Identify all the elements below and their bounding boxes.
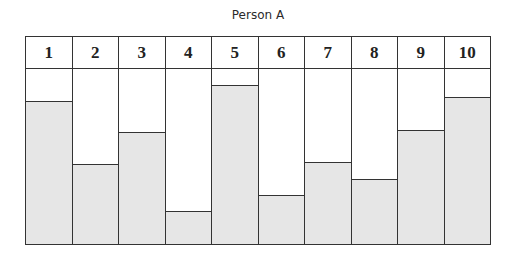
- column-header: 6: [259, 37, 305, 69]
- bar-column-7: 7: [304, 37, 351, 244]
- column-header: 10: [445, 37, 491, 69]
- column-plot-area: [166, 69, 212, 244]
- bar-column-8: 8: [351, 37, 398, 244]
- column-header: 1: [26, 37, 72, 69]
- bar-table: 12345678910: [25, 36, 491, 245]
- bar-fill: [305, 162, 351, 244]
- bar-fill: [212, 85, 258, 244]
- column-header: 4: [166, 37, 212, 69]
- column-plot-area: [305, 69, 351, 244]
- column-plot-area: [119, 69, 165, 244]
- bar-fill: [73, 164, 119, 245]
- bar-fill: [445, 97, 491, 244]
- column-header: 3: [119, 37, 165, 69]
- column-plot-area: [259, 69, 305, 244]
- bar-fill: [398, 130, 444, 244]
- bar-column-1: 1: [26, 37, 72, 244]
- column-header: 9: [398, 37, 444, 69]
- column-plot-area: [26, 69, 72, 244]
- bar-fill: [119, 132, 165, 244]
- column-plot-area: [73, 69, 119, 244]
- column-header: 5: [212, 37, 258, 69]
- column-plot-area: [445, 69, 491, 244]
- column-plot-area: [398, 69, 444, 244]
- column-header: 8: [352, 37, 398, 69]
- column-plot-area: [352, 69, 398, 244]
- bar-column-2: 2: [72, 37, 119, 244]
- bar-column-4: 4: [165, 37, 212, 244]
- column-header: 2: [73, 37, 119, 69]
- bar-fill: [26, 101, 72, 245]
- chart-title: Person A: [0, 8, 516, 22]
- bar-column-10: 10: [444, 37, 491, 244]
- bar-column-3: 3: [118, 37, 165, 244]
- bar-fill: [352, 179, 398, 244]
- bar-column-9: 9: [397, 37, 444, 244]
- bar-column-5: 5: [211, 37, 258, 244]
- bar-fill: [166, 211, 212, 244]
- bar-fill: [259, 195, 305, 244]
- column-plot-area: [212, 69, 258, 244]
- column-header: 7: [305, 37, 351, 69]
- bar-column-6: 6: [258, 37, 305, 244]
